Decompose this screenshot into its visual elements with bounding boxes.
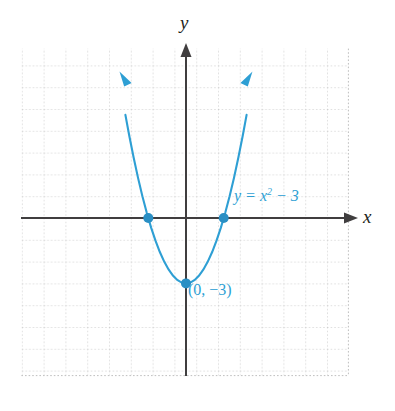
equation-annotation: y = x2 − 3 — [234, 186, 299, 205]
point-left-root[interactable] — [143, 213, 153, 223]
equation-prefix: y = x — [234, 187, 267, 204]
graph-figure: y x y = x2 − 3 (0, −3) — [0, 0, 395, 411]
vertex-annotation: (0, −3) — [188, 281, 232, 299]
equation-suffix: − 3 — [272, 187, 299, 204]
grid — [21, 49, 348, 376]
y-axis-label: y — [180, 12, 188, 34]
coordinate-plane — [0, 0, 395, 411]
x-axis-label: x — [363, 206, 371, 228]
point-right-root[interactable] — [219, 213, 229, 223]
